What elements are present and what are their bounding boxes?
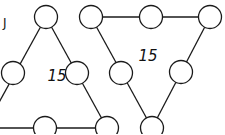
number-circle-slot[interactable]	[66, 62, 89, 85]
magic-triangles-diagram: 1515J	[0, 0, 225, 134]
cut-off-text-fragment: J	[2, 16, 7, 30]
number-circle-slot[interactable]	[170, 61, 193, 84]
number-circle-slot[interactable]	[35, 6, 58, 29]
number-circle-slot[interactable]	[34, 117, 57, 135]
triangle-right: 15	[80, 6, 222, 135]
sum-label: 15	[138, 47, 157, 65]
number-circle-slot[interactable]	[96, 117, 119, 135]
number-circle-slot[interactable]	[199, 6, 222, 29]
number-circle-slot[interactable]	[2, 62, 25, 85]
triangle-left: 15	[0, 6, 119, 135]
sum-label: 15	[47, 67, 66, 85]
number-circle-slot[interactable]	[80, 6, 103, 29]
number-circle-slot[interactable]	[141, 117, 164, 135]
number-circle-slot[interactable]	[110, 62, 133, 85]
number-circle-slot[interactable]	[140, 6, 163, 29]
